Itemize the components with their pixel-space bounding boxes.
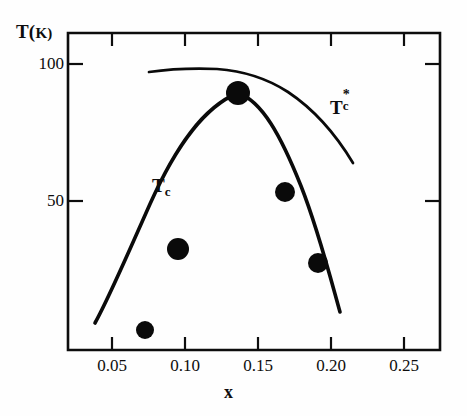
x-tick-label-015: 0.15 — [230, 357, 286, 374]
annotation-tc-star-base: T — [330, 97, 343, 118]
x-tick-marks — [112, 337, 404, 350]
data-point — [226, 81, 250, 105]
x-tick-label-025: 0.25 — [376, 357, 432, 374]
annotation-tc-star: T*c — [330, 95, 352, 117]
x-tick-label-005: 0.05 — [84, 357, 140, 374]
y-axis-title-unit: K) — [35, 25, 52, 41]
y-tick-marks-right — [425, 64, 440, 201]
annotation-tc-base: T — [152, 175, 165, 196]
annotation-tc-star-affixes: *c — [343, 95, 352, 114]
data-point — [308, 253, 328, 273]
data-points — [136, 81, 328, 339]
x-tick-label-020: 0.20 — [303, 357, 359, 374]
y-tick-marks — [68, 64, 83, 201]
annotation-tc-sub: c — [165, 184, 171, 199]
y-tick-label-50: 50 — [22, 192, 64, 209]
y-axis-title-text: T( — [16, 21, 35, 42]
annotation-tc-star-sub: c — [343, 99, 349, 112]
figure-root: T(K) 100 50 0.05 0.10 0.15 0.20 0.25 x T… — [0, 0, 467, 416]
data-point — [136, 321, 154, 339]
y-tick-label-100: 100 — [22, 55, 64, 72]
series-tc-curve — [95, 93, 340, 323]
data-point — [275, 182, 295, 202]
annotation-tc: Tc — [152, 176, 170, 198]
x-tick-marks-top — [112, 33, 404, 46]
x-axis-title: x — [224, 383, 233, 401]
axis-frame — [68, 33, 440, 350]
x-tick-label-010: 0.10 — [157, 357, 213, 374]
y-axis-title: T(K) — [16, 22, 52, 41]
plot-canvas — [0, 0, 467, 416]
data-point — [167, 238, 189, 260]
